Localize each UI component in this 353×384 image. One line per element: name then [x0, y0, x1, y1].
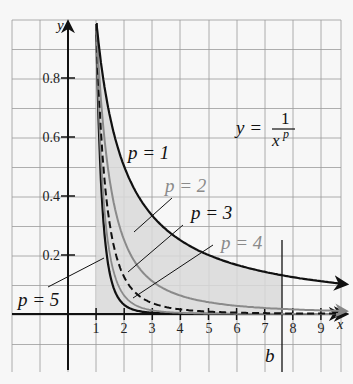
chart-svg: 1 2 3 4 5 6 7 8 9 0.2 0.4 0.6 0.8 y x b …: [0, 0, 353, 384]
chart-container: 1 2 3 4 5 6 7 8 9 0.2 0.4 0.6 0.8 y x b …: [0, 0, 353, 384]
y-tick-02: 0.2: [43, 248, 61, 263]
label-p3: p = 3: [189, 202, 232, 223]
y-tick-08: 0.8: [43, 71, 61, 86]
x-tick-labels: 1 2 3 4 5 6 7 8 9: [93, 321, 325, 336]
x-tick-8: 8: [290, 321, 297, 336]
b-label: b: [265, 345, 275, 366]
y-tick-labels: 0.2 0.4 0.6 0.8: [43, 71, 61, 263]
x-tick-5: 5: [206, 321, 213, 336]
label-p4: p = 4: [219, 232, 263, 253]
formula-exponent: p: [282, 127, 289, 141]
x-tick-7: 7: [262, 321, 269, 336]
x-tick-4: 4: [177, 321, 184, 336]
y-tick-06: 0.6: [43, 130, 61, 145]
y-axis-label: y: [55, 17, 64, 33]
formula: y = 1 x p: [234, 109, 295, 150]
x-axis-label: x: [336, 317, 344, 332]
x-tick-2: 2: [121, 321, 128, 336]
label-p5: p = 5: [16, 289, 59, 310]
formula-lhs: y =: [234, 117, 262, 138]
y-tick-04: 0.4: [43, 189, 61, 204]
x-tick-1: 1: [93, 321, 100, 336]
formula-numerator: 1: [281, 109, 290, 128]
label-p2: p = 2: [163, 175, 207, 196]
x-tick-3: 3: [149, 321, 156, 336]
label-p1: p = 1: [126, 142, 169, 163]
x-tick-6: 6: [234, 321, 241, 336]
x-tick-9: 9: [318, 321, 325, 336]
formula-denominator: x: [271, 131, 280, 150]
